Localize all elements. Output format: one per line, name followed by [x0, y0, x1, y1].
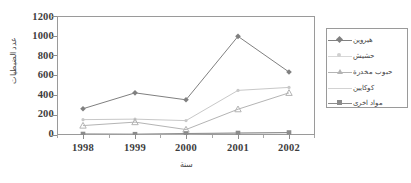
series-1	[80, 34, 292, 112]
legend-key-triangle-icon	[327, 67, 353, 77]
chart-legend: هيروين حشيش حبوب مخدرة كوكايين	[326, 28, 408, 108]
y-tick-label: 1200	[14, 11, 54, 22]
data-point	[184, 131, 189, 135]
legend-label: كوكايين	[353, 84, 377, 92]
data-point	[80, 106, 86, 112]
y-tick-label: 600	[14, 69, 54, 80]
data-point	[81, 132, 86, 135]
legend-entry-other-substances[interactable]: مواد اخرى	[327, 95, 407, 111]
data-point	[133, 132, 138, 135]
data-point	[236, 89, 239, 92]
x-minor-tick	[212, 135, 213, 138]
y-tick-label: 800	[14, 50, 54, 61]
legend-label: حبوب مخدرة	[353, 68, 395, 76]
data-series-layer	[57, 16, 315, 135]
x-minor-tick	[109, 135, 110, 138]
x-tick-mark	[83, 135, 84, 139]
x-tick-label: 2000	[175, 142, 197, 153]
series-2	[81, 86, 290, 122]
series-3	[80, 90, 292, 132]
legend-label: مواد اخرى	[353, 99, 386, 107]
x-axis-tick-group: 1998 1999 2000 2001 2002	[57, 142, 315, 156]
y-tick-label: 1000	[14, 30, 54, 41]
data-point	[236, 131, 241, 135]
legend-label: حشيش	[353, 52, 377, 60]
x-tick-mark	[135, 135, 136, 139]
y-tick-label: 400	[14, 89, 54, 100]
data-point	[287, 130, 292, 135]
line-chart-figure: عدد الضبطيات 1200 1000 800 600 400 200 0…	[0, 0, 411, 183]
legend-entry-cocaine[interactable]: كوكايين	[327, 80, 407, 96]
legend-key-square-icon	[327, 98, 353, 108]
x-tick-label: 2002	[278, 142, 300, 153]
data-point	[184, 119, 187, 122]
series-5	[81, 130, 292, 135]
data-point	[132, 90, 138, 96]
x-minor-tick	[160, 135, 161, 138]
data-point	[81, 118, 84, 121]
legend-entry-hashish[interactable]: حشيش	[327, 48, 407, 64]
legend-label: هيروين	[353, 36, 376, 44]
x-tick-mark	[289, 135, 290, 139]
y-axis-tick-group: 1200 1000 800 600 400 200 0	[14, 8, 54, 143]
x-tick-label: 1998	[72, 142, 94, 153]
x-minor-tick	[263, 135, 264, 138]
x-axis-title: سنة	[57, 160, 315, 169]
x-tick-mark	[238, 135, 239, 139]
data-point	[287, 86, 290, 89]
legend-key-diamond-icon	[327, 35, 353, 45]
legend-entry-narcotic-pills[interactable]: حبوب مخدرة	[327, 64, 407, 80]
legend-key-line-icon	[327, 51, 353, 61]
x-minor-tick	[57, 135, 58, 138]
data-point	[286, 90, 292, 96]
series-line	[83, 87, 289, 120]
y-tick-label: 0	[14, 128, 54, 139]
legend-key-plainline-icon	[327, 83, 353, 93]
x-tick-mark	[186, 135, 187, 139]
legend-entry-heroin[interactable]: هيروين	[327, 32, 407, 48]
x-minor-tick	[314, 135, 315, 138]
x-tick-label: 2001	[227, 142, 249, 153]
x-tick-label: 1999	[124, 142, 146, 153]
y-tick-label: 200	[14, 108, 54, 119]
